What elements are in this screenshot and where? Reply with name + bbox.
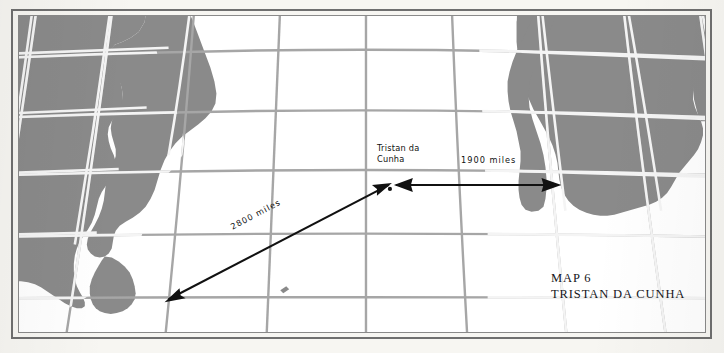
label-tristan-line1: Tristan da	[377, 143, 419, 153]
tristan-da-cunha-marker	[388, 187, 392, 191]
map-title-block: MAP 6 TRISTAN DA CUNHA	[551, 270, 685, 302]
label-tristan-line2: Cunha	[377, 154, 405, 164]
label-tristan-da-cunha: Tristan daCunha	[377, 143, 419, 164]
label-distance-1900-miles: 1900 miles	[461, 155, 516, 165]
map-number: MAP 6	[551, 270, 685, 286]
map-name: TRISTAN DA CUNHA	[551, 286, 685, 302]
map-page: Tristan daCunha 1900 miles 2800 miles MA…	[0, 0, 724, 353]
